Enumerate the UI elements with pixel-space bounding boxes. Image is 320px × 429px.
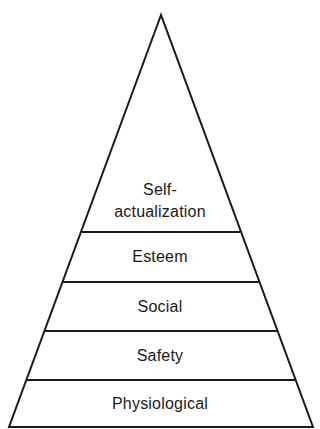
- level-physiological: Physiological: [0, 394, 320, 414]
- level-self-actualization-line1: Self-: [0, 180, 320, 200]
- pyramid-diagram: Self- actualization Esteem Social Safety…: [0, 0, 320, 429]
- level-social: Social: [0, 297, 320, 317]
- level-safety: Safety: [0, 346, 320, 366]
- level-self-actualization-line2: actualization: [0, 202, 320, 222]
- level-esteem: Esteem: [0, 247, 320, 267]
